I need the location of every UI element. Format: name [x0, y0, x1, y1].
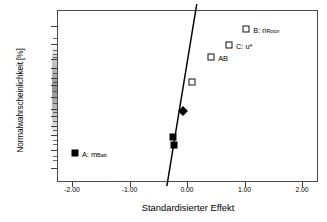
data-point-B [243, 25, 250, 32]
data-point-label-AB: AB [218, 53, 228, 62]
data-point-label-B: B: nRotor [253, 25, 279, 34]
x-tick-label: 2.00 [282, 186, 322, 193]
y-axis-label: Normalwahrscheinlichkeit [%] [16, 11, 25, 191]
data-point-p2 [169, 133, 176, 140]
data-point-label-C: C: u* [236, 42, 252, 51]
x-tick-label: -1.00 [110, 186, 150, 193]
data-point-label-A: A: mBatt [82, 150, 107, 159]
data-point-C [225, 42, 232, 49]
normal-probability-plot: Normalwahrscheinlichkeit [%] 99.999.095.… [0, 0, 327, 222]
x-tick-mark [245, 182, 246, 187]
x-tick-mark [130, 182, 131, 187]
data-point-AB [208, 53, 215, 60]
x-tick-label: 0.00 [167, 186, 207, 193]
x-tick-label: 1.00 [225, 186, 265, 193]
x-tick-mark [302, 182, 303, 187]
x-tick-mark [187, 182, 188, 187]
data-point-p3 [171, 142, 178, 149]
data-point-label-subscript-A: Batt [97, 153, 107, 159]
x-tick-mark [72, 182, 73, 187]
data-point-label-subscript-B: Rotor [266, 28, 279, 34]
data-point-p5 [188, 78, 195, 85]
x-tick-label: -2.00 [52, 186, 92, 193]
x-axis-label: Standardisierter Effekt [57, 202, 319, 213]
data-point-A [71, 150, 78, 157]
